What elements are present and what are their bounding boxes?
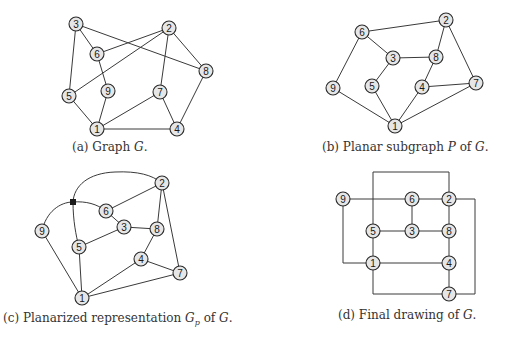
- node-c-8: 8: [150, 222, 164, 236]
- caption-c: (c) Planarized representation Gp of G.: [3, 311, 233, 327]
- node-c-9: 9: [35, 224, 49, 238]
- svg-text:4: 4: [446, 258, 452, 269]
- figure-canvas: 123456789123456789123456789123456789: [0, 0, 507, 337]
- node-b-5: 5: [365, 79, 379, 93]
- edge-6-9: [333, 32, 362, 88]
- caption-d: (d) Final drawing of G.: [338, 308, 476, 322]
- node-d-6: 6: [405, 192, 419, 206]
- node-a-8: 8: [199, 64, 213, 78]
- svg-text:2: 2: [446, 194, 452, 205]
- svg-text:6: 6: [103, 206, 109, 217]
- edge-2-7: [162, 183, 180, 273]
- svg-text:4: 4: [174, 124, 180, 135]
- node-c-2: 2: [155, 176, 169, 190]
- node-b-7: 7: [469, 76, 483, 90]
- node-c-1: 1: [75, 291, 89, 305]
- node-a-4: 4: [170, 122, 184, 136]
- edge-5-1: [79, 247, 82, 298]
- caption-d-var: G: [463, 308, 473, 322]
- svg-text:5: 5: [370, 226, 376, 237]
- caption-a: (a) Graph G.: [72, 140, 147, 154]
- caption-b-text: (b) Planar subgraph: [322, 140, 448, 154]
- svg-text:7: 7: [473, 78, 479, 89]
- edge-1-7: [373, 263, 449, 294]
- caption-d-text: (d) Final drawing of: [338, 308, 463, 322]
- caption-a-text: (a) Graph: [72, 140, 134, 154]
- svg-text:2: 2: [443, 15, 449, 26]
- node-d-7: 7: [442, 287, 456, 301]
- svg-text:1: 1: [392, 121, 398, 132]
- node-b-6: 6: [355, 25, 369, 39]
- edge-2-7: [160, 28, 169, 92]
- caption-c-var: G: [185, 311, 195, 325]
- node-b-2: 2: [439, 13, 453, 27]
- svg-text:5: 5: [66, 91, 72, 102]
- node-d-1: 1: [366, 256, 380, 270]
- crossing-dummy-node: [70, 199, 76, 205]
- edge-3-5: [69, 24, 76, 96]
- node-c-6: 6: [99, 204, 113, 218]
- edge-7-1: [395, 83, 476, 126]
- svg-text:6: 6: [359, 27, 365, 38]
- svg-text:3: 3: [409, 226, 415, 237]
- node-d-8: 8: [442, 224, 456, 238]
- svg-text:1: 1: [79, 293, 85, 304]
- caption-b: (b) Planar subgraph P of G.: [322, 140, 489, 154]
- svg-text:4: 4: [138, 254, 144, 265]
- edge-8-4: [177, 71, 206, 129]
- graph-b-edges: [333, 20, 476, 126]
- edge-2-7: [446, 20, 476, 83]
- node-b-8: 8: [429, 50, 443, 64]
- node-d-2: 2: [442, 192, 456, 206]
- edge-2-7: [449, 199, 475, 294]
- node-a-3: 3: [69, 17, 83, 31]
- svg-text:6: 6: [409, 194, 415, 205]
- graph-a-edges: [69, 24, 206, 129]
- caption-c-mid: of: [200, 311, 219, 325]
- node-c-5: 5: [72, 240, 86, 254]
- node-a-2: 2: [162, 21, 176, 35]
- svg-text:7: 7: [177, 268, 183, 279]
- svg-text:4: 4: [419, 82, 425, 93]
- caption-b-var2: G: [475, 140, 485, 154]
- node-a-1: 1: [90, 122, 104, 136]
- svg-text:1: 1: [370, 258, 376, 269]
- svg-text:3: 3: [390, 53, 396, 64]
- svg-text:2: 2: [159, 178, 165, 189]
- edge-dummy-2: [73, 172, 162, 202]
- caption-b-mid: of: [456, 140, 475, 154]
- caption-a-suffix: .: [144, 140, 148, 154]
- svg-text:3: 3: [121, 222, 127, 233]
- node-d-9: 9: [336, 192, 350, 206]
- svg-text:2: 2: [166, 23, 172, 34]
- node-b-1: 1: [388, 119, 402, 133]
- node-c-3: 3: [117, 220, 131, 234]
- node-a-7: 7: [153, 85, 167, 99]
- svg-text:9: 9: [330, 83, 336, 94]
- svg-text:7: 7: [157, 87, 163, 98]
- caption-b-suffix: .: [485, 140, 489, 154]
- svg-text:9: 9: [105, 86, 111, 97]
- edge-1-7: [82, 273, 180, 298]
- edge-2-5: [69, 28, 169, 96]
- svg-text:7: 7: [446, 289, 452, 300]
- svg-text:8: 8: [203, 66, 209, 77]
- node-a-6: 6: [90, 47, 104, 61]
- node-c-4: 4: [134, 252, 148, 266]
- caption-c-suffix: .: [229, 311, 233, 325]
- caption-c-text: (c) Planarized representation: [3, 311, 185, 325]
- svg-text:6: 6: [94, 49, 100, 60]
- svg-text:9: 9: [39, 226, 45, 237]
- node-c-7: 7: [173, 266, 187, 280]
- svg-text:5: 5: [76, 242, 82, 253]
- caption-a-var: G: [134, 140, 144, 154]
- node-b-3: 3: [386, 51, 400, 65]
- svg-text:3: 3: [73, 19, 79, 30]
- svg-text:8: 8: [446, 226, 452, 237]
- svg-text:8: 8: [433, 52, 439, 63]
- caption-c-var2: G: [219, 311, 229, 325]
- node-d-4: 4: [442, 256, 456, 270]
- graph-nodes: 123456789123456789123456789123456789: [35, 13, 483, 305]
- svg-text:5: 5: [369, 81, 375, 92]
- edge-4-7: [422, 83, 476, 87]
